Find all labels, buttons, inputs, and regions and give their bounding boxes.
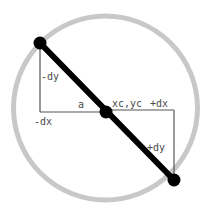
label-center-coordinates: xc,yc [112,98,142,109]
endpoint-top-left [34,37,47,50]
label-a: a [78,99,84,110]
label-neg-dy: -dy [41,71,59,82]
center-point [100,106,113,119]
label-pos-dy: +dy [147,142,165,153]
diagram-canvas: -dy -dx a xc,yc +dx +dy [0,0,210,219]
label-pos-dx: +dx [150,98,168,109]
label-neg-dx: -dx [34,116,52,127]
geometry-diagram: -dy -dx a xc,yc +dx +dy [0,0,210,219]
endpoint-bottom-right [168,174,181,187]
